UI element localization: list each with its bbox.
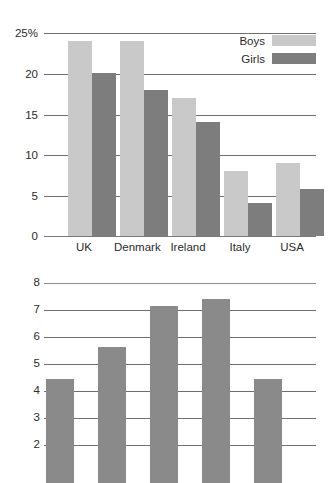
bar-denmark-boys bbox=[120, 41, 144, 236]
bar-denmark-girls bbox=[144, 90, 168, 236]
ytick-label-b2: 2 bbox=[0, 439, 40, 450]
ytick-label-5: 5 bbox=[0, 191, 38, 202]
legend: Boys Girls bbox=[196, 33, 316, 69]
x-axis-line-top bbox=[44, 236, 316, 237]
bar-italy-girls bbox=[248, 203, 272, 236]
bar-secondary-5 bbox=[254, 379, 282, 483]
ytick-label-25: 25% bbox=[0, 28, 38, 39]
bar-usa-boys bbox=[276, 163, 300, 236]
xtick-label-usa: USA bbox=[270, 241, 314, 253]
legend-item-girls: Girls bbox=[196, 51, 316, 66]
legend-item-boys: Boys bbox=[196, 33, 316, 48]
gridline-6 bbox=[44, 337, 316, 338]
ytick-label-b4: 4 bbox=[0, 385, 40, 396]
bar-chart-secondary: 8 7 6 5 4 3 2 bbox=[0, 262, 336, 462]
ytick-label-0: 0 bbox=[0, 231, 38, 242]
legend-swatch-boys bbox=[272, 35, 316, 46]
legend-swatch-girls bbox=[272, 53, 316, 64]
xtick-label-uk: UK bbox=[62, 241, 106, 253]
bar-uk-boys bbox=[68, 41, 92, 236]
xtick-label-denmark: Denmark bbox=[114, 241, 158, 253]
gridline-5 bbox=[44, 364, 316, 365]
bar-italy-boys bbox=[224, 171, 248, 236]
plot-area-bottom bbox=[44, 283, 316, 483]
bar-secondary-3 bbox=[150, 306, 178, 483]
legend-label-boys: Boys bbox=[239, 35, 265, 47]
bar-secondary-2 bbox=[98, 347, 126, 483]
ytick-label-20: 20 bbox=[0, 69, 38, 80]
legend-label-girls: Girls bbox=[241, 53, 265, 65]
bar-secondary-4 bbox=[202, 299, 230, 483]
bar-secondary-1 bbox=[46, 379, 74, 483]
bar-ireland-boys bbox=[172, 98, 196, 236]
gridline-8 bbox=[44, 283, 316, 284]
ytick-label-b7: 7 bbox=[0, 304, 40, 315]
bar-chart-boys-girls: 25% 20 15 10 5 0 Boys Girls UK Denmark I… bbox=[0, 0, 336, 258]
ytick-label-b8: 8 bbox=[0, 277, 40, 288]
ytick-label-b3: 3 bbox=[0, 412, 40, 423]
ytick-label-b6: 6 bbox=[0, 331, 40, 342]
bar-ireland-girls bbox=[196, 122, 220, 236]
ytick-label-b5: 5 bbox=[0, 358, 40, 369]
bar-uk-girls bbox=[92, 73, 116, 236]
ytick-label-10: 10 bbox=[0, 150, 38, 161]
bar-usa-girls bbox=[300, 189, 324, 236]
xtick-label-ireland: Ireland bbox=[166, 241, 210, 253]
xtick-label-italy: Italy bbox=[218, 241, 262, 253]
gridline-7 bbox=[44, 310, 316, 311]
ytick-label-15: 15 bbox=[0, 110, 38, 121]
